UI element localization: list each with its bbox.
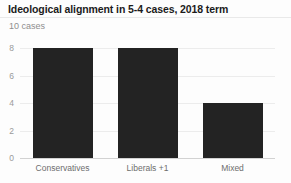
plot-area: 02468 xyxy=(20,40,275,158)
bar[interactable] xyxy=(203,103,263,158)
chart-subtitle: 10 cases xyxy=(9,21,45,31)
y-axis-tick-label: 8 xyxy=(9,43,14,53)
bar[interactable] xyxy=(118,48,178,158)
y-axis-tick-label: 0 xyxy=(9,153,14,163)
category-axis: ConservativesLiberals +1Mixed xyxy=(20,163,275,177)
axis-baseline: 0 xyxy=(20,158,275,159)
title-divider xyxy=(0,17,291,18)
chart-card: Ideological alignment in 5-4 cases, 2018… xyxy=(0,0,291,183)
category-label: Liberals +1 xyxy=(127,163,169,173)
y-axis-tick-label: 4 xyxy=(9,98,14,108)
category-label: Mixed xyxy=(221,163,244,173)
y-axis-tick-label: 6 xyxy=(9,71,14,81)
bar[interactable] xyxy=(33,48,93,158)
chart-title: Ideological alignment in 5-4 cases, 2018… xyxy=(8,3,228,15)
y-axis-tick-label: 2 xyxy=(9,126,14,136)
category-label: Conservatives xyxy=(36,163,90,173)
